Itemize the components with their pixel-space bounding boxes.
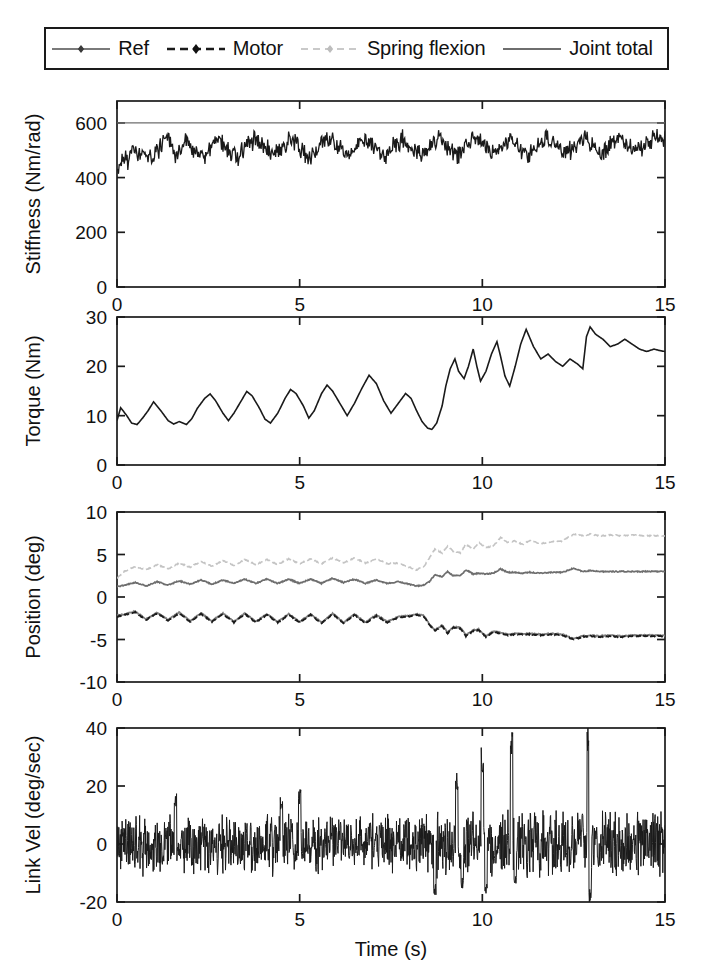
y-axis-label: Torque (Nm) <box>22 335 44 446</box>
panel-3: -10-50510051015Position (deg) <box>22 502 676 710</box>
y-tick-label: 0 <box>96 587 107 608</box>
y-axis-label: Link Vel (deg/sec) <box>22 736 44 895</box>
y-tick-label: 600 <box>75 113 107 134</box>
x-tick-label: 5 <box>294 909 305 930</box>
legend-label-motor: Motor <box>227 37 299 60</box>
figure-root: Ref Motor Spring flexion <box>0 0 715 975</box>
y-tick-label: 40 <box>86 718 107 739</box>
legend-entry-ref: Ref <box>50 37 165 60</box>
y-tick-label: 400 <box>75 168 107 189</box>
trace-ref <box>117 611 665 638</box>
y-tick-label: 10 <box>86 502 107 523</box>
axes-frame <box>117 101 665 287</box>
x-tick-label: 0 <box>112 909 123 930</box>
legend-entry-motor: Motor <box>165 37 299 60</box>
y-tick-label: 0 <box>96 455 107 476</box>
x-axis-label: Time (s) <box>355 938 428 960</box>
trace-joint-total <box>117 568 665 587</box>
legend-swatch-joint-total <box>501 40 563 58</box>
x-tick-label: 10 <box>472 909 493 930</box>
y-tick-label: -5 <box>90 630 107 651</box>
legend-swatch-motor <box>165 40 227 58</box>
x-tick-label: 0 <box>112 472 123 493</box>
x-tick-label: 10 <box>472 689 493 710</box>
x-tick-label: 15 <box>654 294 675 315</box>
trace-motor <box>117 327 665 430</box>
legend-label-joint-total: Joint total <box>563 37 662 60</box>
y-tick-label: -10 <box>80 672 107 693</box>
legend-entry-spring-flexion: Spring flexion <box>299 37 501 60</box>
axes-frame <box>117 512 665 682</box>
x-tick-label: 15 <box>654 909 675 930</box>
plot-stack: 0200400600051015Stiffness (Nm/rad)010203… <box>0 70 715 975</box>
legend-entry-joint-total: Joint total <box>501 37 662 60</box>
legend-swatch-spring-flexion <box>299 40 361 58</box>
y-tick-label: 10 <box>86 406 107 427</box>
y-tick-label: 0 <box>96 277 107 298</box>
y-tick-label: -20 <box>80 892 107 913</box>
panel-1: 0200400600051015Stiffness (Nm/rad) <box>22 101 676 315</box>
legend-label-ref: Ref <box>112 37 165 60</box>
x-tick-label: 15 <box>654 689 675 710</box>
x-tick-label: 5 <box>294 689 305 710</box>
y-axis-label: Stiffness (Nm/rad) <box>22 114 44 275</box>
legend-swatch-ref <box>50 40 112 58</box>
panel-4: -2002040051015Link Vel (deg/sec)Time (s) <box>22 718 676 960</box>
y-tick-label: 5 <box>96 545 107 566</box>
x-tick-label: 15 <box>654 472 675 493</box>
x-tick-label: 10 <box>472 294 493 315</box>
y-tick-label: 20 <box>86 776 107 797</box>
y-axis-label: Position (deg) <box>22 535 44 658</box>
y-tick-label: 30 <box>86 307 107 328</box>
x-tick-label: 0 <box>112 294 123 315</box>
legend: Ref Motor Spring flexion <box>44 27 669 70</box>
y-tick-label: 0 <box>96 834 107 855</box>
x-tick-label: 5 <box>294 294 305 315</box>
x-tick-label: 10 <box>472 472 493 493</box>
y-tick-label: 200 <box>75 222 107 243</box>
trace-motor <box>117 129 665 174</box>
x-tick-label: 0 <box>112 689 123 710</box>
legend-label-spring-flexion: Spring flexion <box>361 37 501 60</box>
y-tick-label: 20 <box>86 356 107 377</box>
panel-2: 0102030051015Torque (Nm) <box>22 307 676 493</box>
x-tick-label: 5 <box>294 472 305 493</box>
trace-link-velocity <box>117 725 665 903</box>
axes-frame <box>117 317 665 465</box>
